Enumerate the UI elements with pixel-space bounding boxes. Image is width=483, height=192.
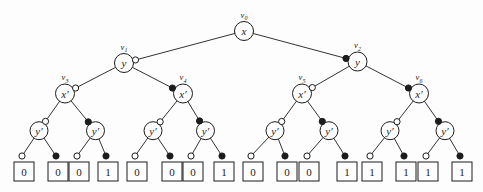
- low-branch-dot-y1: [42, 118, 48, 124]
- node-id-v2: v2: [354, 40, 361, 52]
- node-label-v0: x: [241, 25, 247, 37]
- leaf-value-t3: 1: [105, 166, 111, 178]
- low-branch-dot-v3: [72, 85, 78, 91]
- node-id-v4: v4: [180, 72, 187, 84]
- low-branch-dot-y3: [157, 119, 163, 125]
- node-id-v1: v1: [121, 42, 128, 54]
- leaf-value-t1: 0: [55, 166, 61, 178]
- low-branch-dot-t10: [304, 153, 310, 159]
- leaf-value-t14: 1: [425, 166, 431, 178]
- high-branch-dot-t13: [401, 153, 407, 159]
- high-branch-dot-v6: [405, 85, 411, 91]
- node-label-v6: x′: [414, 88, 423, 100]
- node-label-y7: y′: [385, 125, 394, 137]
- low-branch-dot-t2: [74, 153, 80, 159]
- high-branch-dot-y2: [85, 119, 91, 125]
- high-branch-dot-y6: [319, 118, 325, 124]
- node-label-v4: x′: [178, 88, 187, 100]
- node-id-subscript: 3: [64, 78, 68, 84]
- leaf-value-t11: 1: [344, 166, 350, 178]
- leaf-value-t7: 1: [221, 166, 227, 178]
- high-branch-dot-t9: [282, 153, 288, 159]
- high-branch-dot-t1: [53, 153, 59, 159]
- high-branch-dot-y8: [435, 118, 441, 124]
- node-label-v1: y: [121, 57, 127, 69]
- node-label-v5: x′: [297, 88, 306, 100]
- high-branch-dot-v2: [343, 55, 349, 61]
- low-branch-dot-y7: [394, 119, 400, 125]
- node-id-subscript: 1: [124, 47, 127, 53]
- low-branch-dot-t6: [188, 153, 194, 159]
- high-branch-dot-t7: [219, 153, 225, 159]
- node-id-v5: v5: [299, 72, 306, 84]
- leaf-value-t15: 1: [459, 166, 465, 178]
- low-branch-dot-t14: [423, 153, 429, 159]
- node-label-y6: y′: [324, 125, 333, 137]
- node-label-y5: y′: [270, 125, 279, 137]
- node-label-v2: y: [354, 56, 360, 68]
- node-id-subscript: 6: [419, 78, 422, 84]
- node-id-v0: v0: [241, 10, 248, 22]
- decision-tree-canvas: xv0yv1yv2x′v3x′v4x′v5x′v6y′y′y′y′y′y′y′y…: [0, 0, 483, 192]
- node-label-y1: y′: [34, 125, 43, 137]
- node-id-subscript: 0: [244, 15, 247, 21]
- low-branch-dot-t8: [248, 153, 254, 159]
- node-id-v6: v6: [416, 72, 423, 84]
- low-branch-dot-t12: [367, 153, 373, 159]
- edge-v0-v2: [244, 31, 358, 62]
- low-branch-dot-t0: [19, 153, 25, 159]
- leaf-value-t8: 0: [250, 166, 256, 178]
- leaf-value-t9: 0: [284, 166, 290, 178]
- low-branch-dot-v1: [132, 57, 138, 63]
- leaf-value-t2: 0: [76, 166, 82, 178]
- high-branch-dot-t3: [103, 153, 109, 159]
- high-branch-dot-v4: [169, 85, 175, 91]
- leaf-value-t13: 1: [403, 166, 409, 178]
- binary-decision-tree-figure: xv0yv1yv2x′v3x′v4x′v5x′v6y′y′y′y′y′y′y′y…: [0, 0, 483, 192]
- node-label-y8: y′: [440, 125, 449, 137]
- high-branch-dot-t15: [457, 153, 463, 159]
- high-branch-dot-t11: [342, 153, 348, 159]
- node-id-subscript: 2: [358, 46, 361, 52]
- node-label-y4: y′: [201, 125, 210, 137]
- low-branch-dot-y5: [279, 118, 285, 124]
- low-branch-dot-v5: [309, 84, 315, 90]
- leaf-value-t5: 0: [169, 166, 175, 178]
- high-branch-dot-t5: [167, 153, 173, 159]
- low-branch-dot-t4: [132, 153, 138, 159]
- high-branch-dot-y4: [197, 118, 203, 124]
- node-label-y2: y′: [91, 125, 100, 137]
- leaf-value-t10: 0: [306, 166, 312, 178]
- labels-layer: xv0yv1yv2x′v3x′v4x′v5x′v6y′y′y′y′y′y′y′y…: [21, 10, 465, 179]
- leaf-value-t0: 0: [21, 166, 27, 178]
- leaf-value-t6: 0: [190, 166, 196, 178]
- node-label-v3: x′: [60, 88, 69, 100]
- edge-v0-v1: [124, 31, 244, 63]
- branch-dots-layer: [19, 55, 463, 159]
- leaf-value-t4: 0: [134, 166, 140, 178]
- leaf-value-t12: 1: [369, 166, 375, 178]
- node-label-y3: y′: [148, 125, 157, 137]
- node-id-subscript: 4: [183, 78, 186, 84]
- node-id-v3: v3: [62, 72, 69, 84]
- node-id-subscript: 5: [302, 78, 305, 84]
